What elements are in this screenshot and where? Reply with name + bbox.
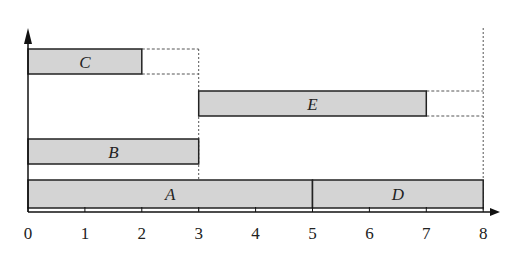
x-tick-label: 1	[81, 224, 90, 243]
x-axis-arrow-icon	[490, 208, 500, 216]
bar-label-e: E	[306, 95, 318, 114]
x-tick-label: 0	[24, 224, 33, 243]
bar-label-a: A	[164, 185, 176, 204]
x-tick-label: 2	[138, 224, 147, 243]
y-axis-arrow-icon	[24, 28, 32, 44]
gantt-chart: ADBEC012345678	[0, 0, 511, 260]
x-tick-label: 4	[251, 224, 260, 243]
bar-label-d: D	[391, 185, 405, 204]
x-tick-label: 6	[365, 224, 374, 243]
x-tick-label: 8	[479, 224, 488, 243]
x-tick-label: 7	[422, 224, 431, 243]
x-tick-label: 3	[194, 224, 203, 243]
x-tick-label: 5	[308, 224, 317, 243]
bar-label-c: C	[79, 53, 91, 72]
bar-label-b: B	[108, 143, 119, 162]
